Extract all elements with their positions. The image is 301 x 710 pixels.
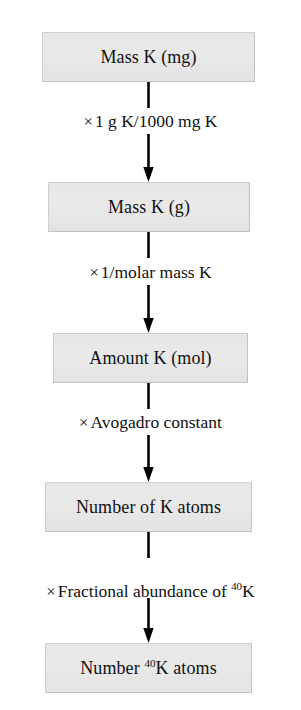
op-label-mg-to-g: ×1 g K/1000 mg K: [0, 113, 301, 131]
node-label-k40-prefix: Number: [80, 658, 144, 678]
multiply-icon: ×: [84, 112, 95, 131]
node-label-mass-k-g: Mass K (g): [108, 198, 190, 216]
node-mass-k-mg: Mass K (mg): [42, 32, 255, 82]
multiply-icon: ×: [79, 413, 90, 432]
node-label-k40-suffix: K atoms: [156, 658, 217, 678]
op-label-molar-mass: ×1/molar mass K: [0, 264, 301, 282]
arrow-amount-to-number: [0, 383, 301, 411]
multiply-icon: ×: [46, 582, 57, 601]
op-text-abundance-superscript: 40: [231, 580, 242, 592]
arrow-mass-mg-to-mass-g: [0, 82, 301, 110]
op-text-molar-mass: 1/molar mass K: [101, 262, 212, 282]
node-label-mass-k-mg: Mass K (mg): [100, 48, 196, 66]
node-number-k40-atoms: Number 40K atoms: [45, 643, 252, 693]
node-number-k-atoms: Number of K atoms: [45, 482, 252, 532]
node-label-number-k-atoms: Number of K atoms: [76, 498, 221, 516]
node-label-amount-k-mol: Amount K (mol): [89, 349, 211, 367]
node-label-k40-superscript: 40: [144, 657, 155, 669]
arrowhead-amount-to-number: [0, 435, 301, 482]
op-text-mg-to-g: 1 g K/1000 mg K: [95, 111, 218, 131]
arrowhead-mass-mg-to-mass-g: [0, 134, 301, 182]
node-mass-k-g: Mass K (g): [48, 182, 250, 232]
arrowhead-mass-g-to-amount: [0, 285, 301, 333]
node-amount-k-mol: Amount K (mol): [53, 333, 248, 383]
node-label-number-k40-atoms: Number 40K atoms: [80, 659, 217, 677]
op-label-avogadro: ×Avogadro constant: [0, 414, 301, 432]
op-text-abundance-prefix: Fractional abundance of: [58, 581, 231, 601]
arrowhead-number-to-k40: [0, 598, 301, 643]
arrow-mass-g-to-amount: [0, 232, 301, 260]
arrow-number-to-k40: [0, 532, 301, 560]
op-text-abundance-suffix: K: [242, 581, 255, 601]
op-label-abundance: ×Fractional abundance of 40K: [0, 583, 301, 601]
multiply-icon: ×: [89, 263, 100, 282]
flowchart-diagram: Mass K (mg) ×1 g K/1000 mg K Mass K (g) …: [0, 0, 301, 710]
op-text-avogadro: Avogadro constant: [90, 412, 221, 432]
